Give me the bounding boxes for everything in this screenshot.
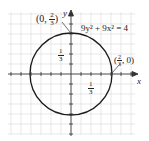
graph-canvas [0,0,149,141]
x-tick-label: 13 [88,79,94,96]
point-label-top: (0, 23) [36,12,58,27]
denominator: 3 [59,56,63,63]
point-label-right: (23, 0) [114,54,134,67]
equation-label: 9y² + 9x² = 4 [81,24,128,33]
point-label-right-close: , 0) [122,55,134,65]
point-label-top-close: ) [55,13,58,24]
point-label-top-open: (0, [36,13,49,24]
y-axis-label: y [63,9,67,18]
denominator: 3 [89,89,93,96]
y-axis-arrow-icon [69,10,74,16]
denominator: 3 [50,20,54,27]
x-axis-label: x [137,77,141,86]
y-tick-label: 13 [58,46,64,63]
fraction: 13 [88,81,94,96]
denominator: 3 [118,61,121,67]
fraction: 13 [58,48,64,63]
